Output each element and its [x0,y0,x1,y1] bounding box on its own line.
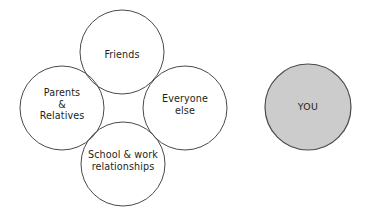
circle-parents-relatives[interactable] [20,66,104,150]
circle-you[interactable] [265,64,351,150]
circle-school-work-relationships[interactable] [81,122,165,206]
circle-friends[interactable] [80,10,164,94]
social-circles-svg [0,0,368,214]
diagram-canvas: Friends Parents & Relatives Everyone els… [0,0,368,214]
